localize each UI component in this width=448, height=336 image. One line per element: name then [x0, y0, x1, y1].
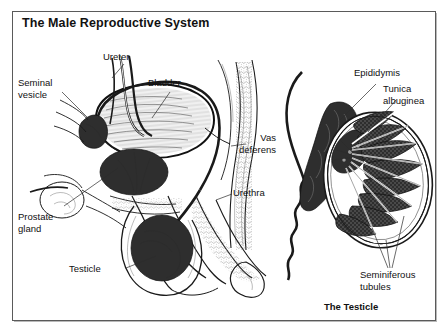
vas-deferens-curve: [287, 72, 304, 280]
anatomy-figure: The Male Reproductive System Ureter Blad…: [0, 0, 448, 336]
scrotum-testicle: [121, 206, 201, 295]
label-tunica-albuginea: Tunica albuginea: [383, 83, 424, 106]
label-seminal-vesicle: Seminal vesicle: [18, 77, 52, 100]
label-testicle: Testicle: [69, 263, 101, 275]
label-vas-deferens: Vas deferens: [208, 132, 276, 155]
label-ureter: Ureter: [103, 51, 129, 63]
leader-urethra: [216, 194, 232, 200]
perineum-tissue: [110, 196, 182, 214]
leader-seminal-vesicle: [62, 92, 90, 120]
label-epididymis: Epididymis: [354, 67, 400, 79]
label-urethra: Urethra: [233, 187, 265, 199]
label-bladder: Bladder: [148, 77, 181, 89]
testicle-caption: The Testicle: [324, 301, 378, 312]
label-prostate-gland: Prostate gland: [18, 211, 53, 234]
left-panel-art: [30, 56, 266, 297]
prostate-organ: [100, 149, 168, 195]
figure-title: The Male Reproductive System: [22, 16, 210, 30]
label-seminiferous-tubules: Seminiferous tubules: [360, 269, 415, 292]
pelvic-wall: [230, 60, 257, 250]
